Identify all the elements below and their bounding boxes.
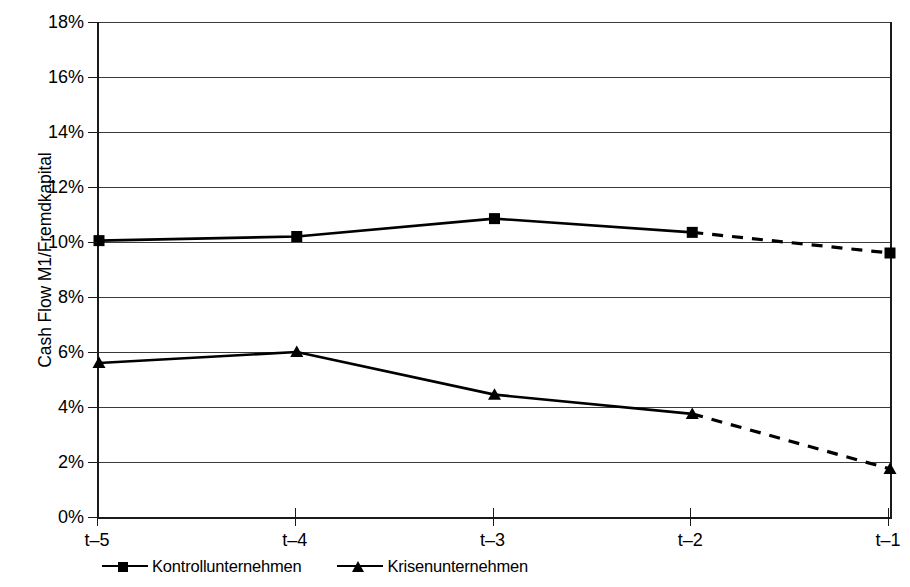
square-marker-icon bbox=[118, 562, 128, 572]
legend-label: Kontrollunternehmen bbox=[152, 557, 301, 575]
y-tick-mark bbox=[88, 132, 97, 133]
y-tick-label: 18% bbox=[14, 13, 84, 31]
y-tick-mark bbox=[88, 22, 97, 23]
x-tick-label: t–5 bbox=[57, 530, 137, 550]
y-tick-mark bbox=[88, 242, 97, 243]
series-line-solid bbox=[99, 352, 692, 414]
y-tick-label: 4% bbox=[14, 398, 84, 416]
y-tick-label: 14% bbox=[14, 123, 84, 141]
square-marker-icon bbox=[489, 213, 500, 224]
series-line-solid bbox=[99, 219, 692, 241]
legend-swatch bbox=[102, 559, 148, 573]
y-tick-label: 12% bbox=[14, 178, 84, 196]
y-tick-mark bbox=[88, 77, 97, 78]
triangle-marker-icon bbox=[352, 561, 364, 572]
x-tick-label: t–2 bbox=[650, 530, 730, 550]
y-tick-label: 6% bbox=[14, 343, 84, 361]
x-tick-mark bbox=[888, 508, 889, 526]
y-tick-mark bbox=[88, 462, 97, 463]
x-tick-mark bbox=[295, 508, 296, 526]
y-tick-label: 2% bbox=[14, 453, 84, 471]
y-tick-mark bbox=[88, 407, 97, 408]
y-tick-mark bbox=[88, 187, 97, 188]
y-tick-mark bbox=[88, 297, 97, 298]
square-marker-icon bbox=[885, 248, 896, 259]
y-tick-label: 10% bbox=[14, 233, 84, 251]
x-tick-label: t–3 bbox=[453, 530, 533, 550]
square-marker-icon bbox=[291, 231, 302, 242]
legend-entry-2: Krisenunternehmen bbox=[337, 557, 528, 575]
plot-area bbox=[97, 22, 892, 519]
chart-figure: Cash Flow M1/Fremdkapital 0%2%4%6%8%10%1… bbox=[0, 0, 910, 587]
y-tick-label: 0% bbox=[14, 508, 84, 526]
x-tick-mark bbox=[97, 508, 98, 526]
y-tick-label: 16% bbox=[14, 68, 84, 86]
square-marker-icon bbox=[687, 227, 698, 238]
square-marker-icon bbox=[94, 235, 105, 246]
x-tick-mark bbox=[493, 508, 494, 526]
y-tick-mark bbox=[88, 352, 97, 353]
series-line-dashed bbox=[692, 414, 890, 469]
chart-legend: KontrollunternehmenKrisenunternehmen bbox=[97, 553, 888, 579]
series-2 bbox=[93, 346, 897, 474]
y-tick-mark bbox=[88, 517, 97, 518]
legend-label: Krisenunternehmen bbox=[387, 557, 528, 575]
x-tick-mark bbox=[690, 508, 691, 526]
legend-entry-1: Kontrollunternehmen bbox=[102, 557, 301, 575]
x-tick-label: t–4 bbox=[255, 530, 335, 550]
series-line-dashed bbox=[692, 232, 890, 253]
y-tick-label: 8% bbox=[14, 288, 84, 306]
data-series-layer bbox=[99, 22, 890, 517]
series-1 bbox=[94, 213, 896, 258]
x-tick-label: t–1 bbox=[848, 530, 910, 550]
legend-swatch bbox=[337, 559, 383, 573]
